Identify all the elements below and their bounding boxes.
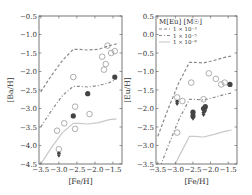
y-tick-label: −2.0 [137,105,154,113]
open-circle-marker [103,61,109,67]
x-tick-label: −1.5 [220,166,237,174]
open-circle-marker [99,54,105,60]
model-line [41,79,117,127]
open-circle-marker [72,104,78,110]
down-arrow-icon [175,103,179,106]
model-line [41,44,117,92]
y-tick-label: −2.5 [20,87,37,95]
y-tick-label: −0.5 [20,13,37,21]
x-tick-label: −2.0 [202,166,219,174]
upper-limit-marker [191,114,195,118]
y-tick-label: −3.0 [137,142,154,150]
open-circle-marker [213,76,219,82]
y-tick-label: −3.5 [20,124,37,132]
x-axis-label: [Fe/H] [68,177,92,186]
x-tick-label: −3.0 [167,166,184,174]
legend-entry-label: 1 × 10⁻⁵ [173,33,197,39]
upper-limit-marker [204,107,208,111]
down-arrow-icon [202,114,206,117]
legend-entry-label: 1 × 10⁻⁶ [173,39,198,45]
y-tick-label: −3.0 [20,105,37,113]
open-circle-marker [188,80,194,86]
open-circle-marker [72,126,78,132]
legend-title: M[Eu] [M☉] [159,18,202,26]
y-tick-label: −1.0 [20,31,37,39]
y-axis-label: [Eu/H] [123,77,132,102]
upper-limit-marker [57,151,61,155]
x-tick-label: −3.0 [50,166,67,174]
open-circle-marker [61,121,67,127]
y-axis-label: [Ba/H] [6,77,15,102]
y-tick-label: 0.0 [143,31,154,39]
x-axis-label: [Fe/H] [184,177,208,186]
open-circle-marker [180,98,186,104]
panel-ba-vs-fe: −0.5−1.0−1.5−2.0−2.5−3.0−3.5−4.0−4.5−3.5… [6,13,122,187]
data-points [174,71,232,136]
panel-eu-vs-fe: 0.50.0−0.5−1.0−1.5−2.0−2.5−3.0−3.5−3.5−3… [123,13,237,187]
y-tick-label: −1.0 [137,68,154,76]
open-circle-marker [206,71,212,77]
open-circle-marker [70,74,76,80]
open-circle-marker [101,67,107,73]
model-lines [41,44,117,164]
filled-circle-marker [85,91,90,96]
y-tick-label: −0.5 [137,50,154,58]
open-circle-marker [87,111,93,117]
figure: −0.5−1.0−1.5−2.0−2.5−3.0−3.5−4.0−4.5−3.5… [0,0,252,195]
open-circle-marker [174,130,180,136]
plot-frame [39,16,122,164]
down-arrow-icon [191,118,195,121]
filled-circle-marker [227,82,232,87]
model-line [41,119,117,164]
y-tick-label: 0.5 [143,13,154,21]
open-circle-marker [54,128,60,134]
x-tick-label: −2.0 [86,166,103,174]
x-tick-label: −3.5 [149,166,166,174]
data-points [54,43,117,158]
y-tick-label: −1.5 [20,50,37,58]
down-arrow-icon [57,155,61,158]
y-tick-label: −2.5 [137,124,154,132]
x-tick-label: −3.5 [32,166,49,174]
open-circle-marker [174,95,180,101]
upper-limit-marker [175,100,179,104]
legend-entry-label: 1 × 10⁻⁴ [173,26,198,32]
filled-circle-marker [112,74,117,79]
y-tick-label: −4.0 [20,142,37,150]
y-tick-label: −2.0 [20,68,37,76]
y-tick-label: −1.5 [137,87,154,95]
x-tick-label: −2.5 [68,166,85,174]
x-tick-label: −2.5 [184,166,201,174]
open-circle-marker [56,146,62,152]
x-tick-label: −1.5 [104,166,121,174]
filled-circle-marker [71,113,76,118]
